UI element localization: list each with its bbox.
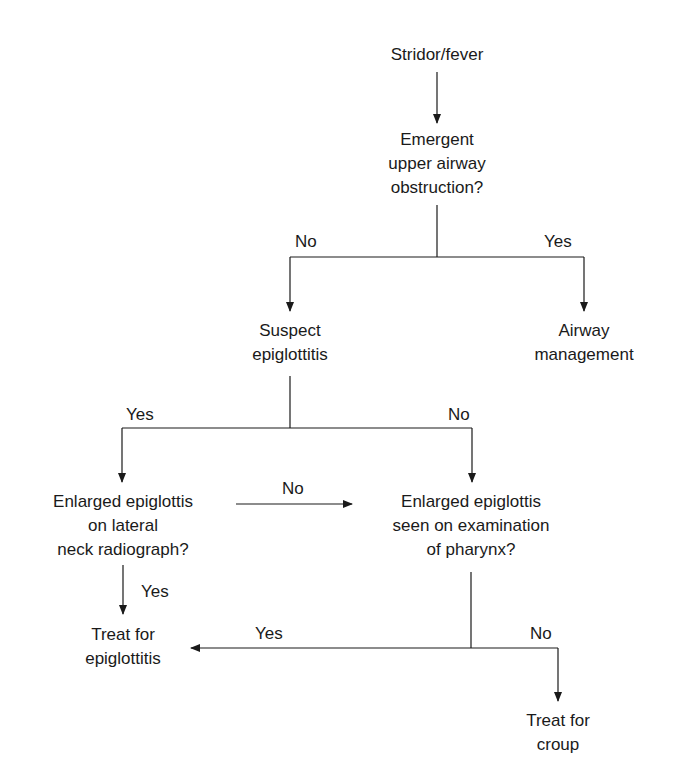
node-text: Treat for <box>23 623 223 647</box>
node-text: Suspect <box>190 319 390 343</box>
node-text: seen on examination <box>366 514 576 538</box>
node-text: obstruction? <box>337 176 537 200</box>
node-text: Enlarged epiglottis <box>366 490 576 514</box>
label-radiograph-yes: Yes <box>141 582 169 602</box>
label-pharynx-no: No <box>530 624 552 644</box>
label-pharynx-yes: Yes <box>255 624 283 644</box>
node-text: Airway <box>484 319 684 343</box>
node-text: of pharynx? <box>366 538 576 562</box>
node-pharynx-examination: Enlarged epiglottis seen on examination … <box>366 490 576 562</box>
label-radiograph-no: No <box>282 479 304 499</box>
node-text: epiglottitis <box>23 647 223 671</box>
node-treat-croup: Treat for croup <box>458 709 658 757</box>
node-text: epiglottitis <box>190 343 390 367</box>
node-text: Enlarged epiglottis <box>23 490 223 514</box>
node-text: Treat for <box>458 709 658 733</box>
node-text: management <box>484 343 684 367</box>
label-suspect-no: No <box>448 405 470 425</box>
node-text: neck radiograph? <box>23 538 223 562</box>
label-obstruction-no: No <box>295 232 317 252</box>
node-text: Emergent <box>337 128 537 152</box>
node-airway-management: Airway management <box>484 319 684 367</box>
label-obstruction-yes: Yes <box>544 232 572 252</box>
node-suspect-epiglottitis: Suspect epiglottitis <box>190 319 390 367</box>
node-emergent-obstruction: Emergent upper airway obstruction? <box>337 128 537 200</box>
label-suspect-yes: Yes <box>126 405 154 425</box>
node-stridor-fever: Stridor/fever <box>337 44 537 65</box>
node-treat-epiglottitis: Treat for epiglottitis <box>23 623 223 671</box>
node-text: Stridor/fever <box>337 44 537 65</box>
node-text: upper airway <box>337 152 537 176</box>
node-lateral-neck-radiograph: Enlarged epiglottis on lateral neck radi… <box>23 490 223 562</box>
node-text: croup <box>458 733 658 757</box>
node-text: on lateral <box>23 514 223 538</box>
